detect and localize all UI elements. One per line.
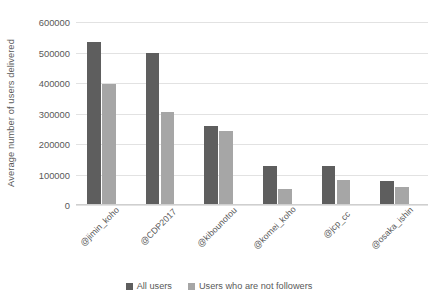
y-tick-label: 600000 — [14, 17, 70, 28]
x-tick-label: @jcp_cc — [321, 209, 352, 240]
x-tick-label: @komei_koho — [251, 204, 298, 251]
bar-group — [252, 22, 311, 205]
bar — [102, 84, 116, 205]
bar-chart: Average number of users delivered 600000… — [0, 0, 438, 307]
bar — [278, 189, 292, 205]
bar-group — [369, 22, 428, 205]
bar — [146, 53, 160, 205]
x-tick-label: @osaka_ishin — [369, 205, 415, 251]
legend-label: All users — [137, 281, 172, 291]
legend-label: Users who are not followers — [199, 281, 312, 291]
bar — [337, 180, 351, 205]
legend-item[interactable]: Users who are not followers — [188, 281, 312, 291]
y-tick-label: 100000 — [14, 169, 70, 180]
y-tick-label: 0 — [14, 200, 70, 211]
x-tick-label: @jimin_koho — [78, 205, 121, 248]
y-tick-label: 500000 — [14, 47, 70, 58]
x-tick-label: @kibounotou — [195, 205, 239, 249]
x-axis-tick-labels: @jimin_koho@CDP2017@kibounotou@komei_koh… — [76, 205, 428, 275]
bar — [204, 126, 218, 205]
x-tick-label: @CDP2017 — [138, 206, 178, 246]
bar — [87, 42, 101, 205]
bar-group — [135, 22, 194, 205]
bar-group — [193, 22, 252, 205]
chart-legend: All usersUsers who are not followers — [0, 281, 438, 291]
bar — [219, 131, 233, 205]
plot-area — [76, 22, 428, 205]
bar — [395, 187, 409, 205]
legend-swatch-icon — [188, 283, 195, 290]
bar — [380, 181, 394, 205]
bar — [263, 166, 277, 205]
bar-group — [311, 22, 370, 205]
y-tick-label: 200000 — [14, 139, 70, 150]
y-tick-label: 300000 — [14, 108, 70, 119]
bar-group — [76, 22, 135, 205]
y-tick-label: 400000 — [14, 78, 70, 89]
bar — [322, 166, 336, 205]
legend-item[interactable]: All users — [126, 281, 172, 291]
bar — [161, 112, 175, 205]
legend-swatch-icon — [126, 283, 133, 290]
